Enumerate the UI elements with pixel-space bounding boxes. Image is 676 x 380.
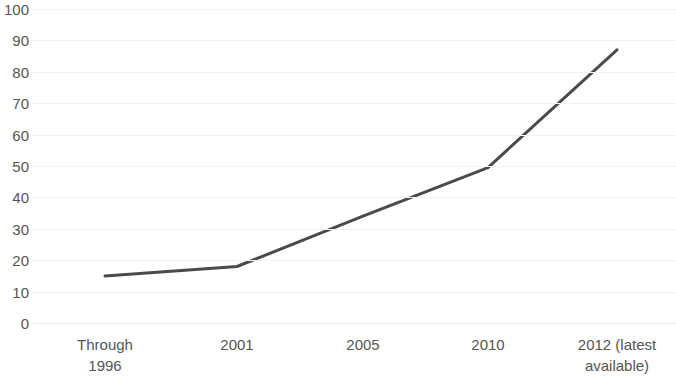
gridline: [33, 260, 676, 261]
axis-baseline: [33, 323, 676, 324]
x-axis-tick-label-line: 2010: [471, 336, 504, 353]
x-axis-tick-label-line: 1996: [77, 355, 133, 376]
gridline: [33, 135, 676, 136]
y-axis-tick-label: 40: [12, 190, 29, 205]
y-axis-tick-label: 70: [12, 96, 29, 111]
y-axis-tick-label: 20: [12, 253, 29, 268]
gridline: [33, 197, 676, 198]
y-axis-tick-label: 60: [12, 127, 29, 142]
y-axis-tick-label: 50: [12, 159, 29, 174]
x-axis-tick-label: 2005: [346, 334, 379, 355]
x-axis-tick-label: 2012 (latestavailable): [578, 334, 656, 376]
y-axis-tick-label: 90: [12, 33, 29, 48]
x-axis-tick-label-line: Through: [77, 336, 133, 353]
x-axis-tick-label-line: 2012 (latest: [578, 336, 656, 353]
gridline: [33, 166, 676, 167]
x-axis-tick-label: 2010: [471, 334, 504, 355]
x-axis-tick-label: Through1996: [77, 334, 133, 376]
gridline: [33, 292, 676, 293]
y-axis-tick-label: 100: [4, 2, 29, 17]
gridline: [33, 229, 676, 230]
y-axis-tick-label: 80: [12, 64, 29, 79]
x-axis-tick-label-line: available): [578, 355, 656, 376]
x-axis-tick-label-line: 2001: [220, 336, 253, 353]
y-axis-tick-label: 0: [21, 316, 29, 331]
gridline: [33, 72, 676, 73]
y-axis: 0102030405060708090100: [0, 0, 33, 380]
line-chart: 0102030405060708090100 Through1996200120…: [0, 0, 676, 380]
x-axis-tick-label-line: 2005: [346, 336, 379, 353]
gridline: [33, 40, 676, 41]
gridline: [33, 103, 676, 104]
x-axis-tick-label: 2001: [220, 334, 253, 355]
y-axis-tick-label: 10: [12, 284, 29, 299]
gridline: [33, 9, 676, 10]
plot-area: [33, 0, 676, 380]
y-axis-tick-label: 30: [12, 221, 29, 236]
